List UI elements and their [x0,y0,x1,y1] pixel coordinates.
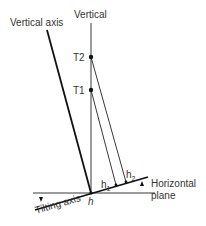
horizontal-plane-label-line1: Horizontal [151,179,196,189]
horizontal-plane-label-line2: plane [151,191,175,201]
pivot-point [89,191,92,194]
up-arrow-icon [140,181,144,186]
h-label: h [88,197,94,207]
h1-point [115,184,118,187]
h1-label-sub: 1 [107,185,111,192]
t2-projection-line [91,57,126,182]
h2-label: h2 [126,170,135,182]
h1-label: h1 [101,180,110,192]
vertical-axis-label: Vertical axis [10,18,63,28]
down-arrow-icon [39,197,43,202]
t2-label: T2 [73,53,85,63]
h2-label-sub: 2 [132,175,136,182]
t1-point [89,88,93,92]
vertical-label: Vertical [74,10,107,20]
t2-point [89,55,93,59]
t1-label: T1 [73,86,85,96]
t1-projection-line [91,90,116,185]
